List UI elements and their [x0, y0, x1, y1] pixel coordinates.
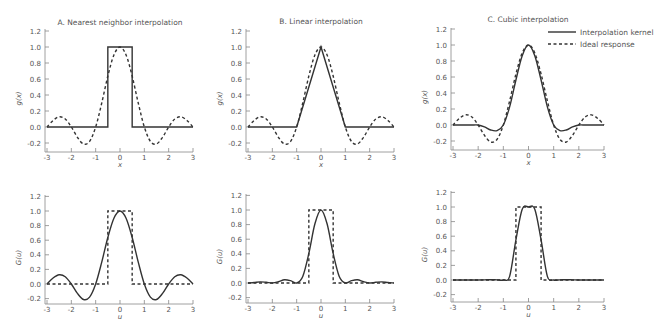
y-tick-label: 1.0: [30, 44, 41, 52]
y-tick-label: 0.8: [231, 221, 242, 229]
x-tick-label: -2: [475, 152, 482, 160]
y-tick-label: 1.2: [436, 26, 447, 34]
y-axis-label: g(x): [216, 91, 224, 105]
legend-label: Ideal response: [580, 40, 635, 49]
series-ideal-response: [453, 207, 604, 280]
x-tick-label: 1: [343, 305, 347, 313]
x-axis-label: u: [319, 312, 324, 320]
x-tick-label: -1: [92, 154, 99, 162]
x-tick-label: -3: [450, 152, 457, 160]
y-tick-label: 1.0: [436, 42, 447, 50]
y-tick-label: 0.4: [30, 251, 42, 259]
x-tick-label: 1: [551, 152, 555, 160]
x-tick-label: 1: [551, 304, 555, 312]
x-tick-label: 2: [367, 154, 371, 162]
series-ideal-response: [248, 47, 394, 144]
y-tick-label: -0.2: [228, 140, 242, 148]
y-tick-label: 1.0: [30, 208, 41, 216]
y-tick-label: 1.2: [231, 192, 242, 200]
y-tick-label: 1.2: [231, 28, 242, 36]
y-tick-label: 0.0: [231, 124, 242, 132]
series-ideal-response: [47, 47, 193, 144]
x-tick-label: 2: [166, 306, 170, 314]
panel-b-bottom: -0.20.00.20.40.60.81.01.2G(u)-3-2-10123u: [216, 192, 396, 320]
y-tick-label: 1.0: [231, 207, 242, 215]
x-axis-label: u: [118, 313, 123, 321]
series-interpolation-kernel: [47, 211, 193, 300]
y-tick-label: 0.4: [231, 92, 243, 100]
x-axis-label: x: [525, 159, 531, 167]
x-axis-label: u: [526, 311, 531, 319]
x-tick-label: 1: [142, 306, 146, 314]
y-axis-label: g(x): [15, 91, 23, 105]
y-axis-label: G(u): [15, 250, 23, 266]
panel-b-top: B. Linear interpolation-0.20.00.20.40.60…: [216, 17, 396, 169]
y-tick-label: 0.2: [30, 266, 41, 274]
y-tick-label: 0.2: [30, 108, 41, 116]
series-ideal-response: [248, 210, 394, 283]
x-tick-label: 3: [602, 152, 606, 160]
y-tick-label: 1.0: [231, 44, 242, 52]
x-tick-label: 3: [191, 154, 195, 162]
x-tick-label: -1: [293, 305, 300, 313]
y-axis-label: g(x): [421, 90, 429, 104]
y-tick-label: -0.2: [27, 140, 41, 148]
series-interpolation-kernel: [453, 45, 604, 131]
x-tick-label: 3: [392, 154, 396, 162]
x-tick-label: 2: [577, 152, 581, 160]
panel-a-top: A. Nearest neighbor interpolation-0.20.0…: [15, 18, 195, 169]
y-tick-label: 0.6: [231, 76, 243, 84]
x-tick-label: 3: [191, 306, 195, 314]
x-tick-label: -2: [68, 154, 75, 162]
y-tick-label: 0.6: [436, 233, 448, 241]
series-ideal-response: [47, 211, 193, 284]
y-axis-label: G(u): [421, 247, 429, 263]
y-axis-label: G(u): [216, 249, 224, 265]
legend-label: Interpolation kernel: [580, 28, 653, 37]
y-tick-label: 0.8: [231, 60, 242, 68]
x-tick-label: -3: [245, 154, 252, 162]
y-tick-label: 0.8: [30, 60, 41, 68]
y-tick-label: 0.0: [436, 122, 447, 130]
series-interpolation-kernel: [453, 206, 604, 280]
y-tick-label: 0.0: [30, 124, 41, 132]
x-tick-label: 2: [166, 154, 170, 162]
y-tick-label: 0.4: [231, 250, 243, 258]
x-tick-label: -1: [293, 154, 300, 162]
y-tick-label: 0.6: [231, 236, 243, 244]
x-tick-label: -1: [500, 152, 507, 160]
y-tick-label: 0.8: [436, 218, 447, 226]
y-tick-label: -0.2: [27, 295, 41, 303]
y-tick-label: 0.6: [30, 76, 42, 84]
y-tick-label: 0.8: [436, 58, 447, 66]
chart-title: A. Nearest neighbor interpolation: [57, 18, 182, 27]
y-tick-label: -0.2: [433, 291, 447, 299]
series-interpolation-kernel: [248, 47, 394, 127]
x-tick-label: -1: [92, 306, 99, 314]
x-tick-label: -3: [245, 305, 252, 313]
y-tick-label: 1.2: [436, 189, 447, 197]
y-tick-label: 0.2: [436, 106, 447, 114]
x-tick-label: -2: [68, 306, 75, 314]
x-axis-label: x: [117, 161, 123, 169]
y-tick-label: 0.6: [30, 237, 42, 245]
x-tick-label: 2: [577, 304, 581, 312]
y-tick-label: 0.6: [436, 74, 448, 82]
y-tick-label: 1.2: [30, 28, 41, 36]
y-tick-label: 0.4: [30, 92, 42, 100]
y-tick-label: 0.8: [30, 222, 41, 230]
figure: A. Nearest neighbor interpolation-0.20.0…: [0, 0, 661, 329]
x-tick-label: 2: [367, 305, 371, 313]
y-tick-label: -0.2: [433, 138, 447, 146]
x-tick-label: -2: [269, 154, 276, 162]
series-interpolation-kernel: [248, 210, 394, 283]
x-axis-label: x: [318, 161, 324, 169]
x-tick-label: -3: [44, 306, 51, 314]
y-tick-label: 0.2: [436, 262, 447, 270]
y-tick-label: 1.2: [30, 193, 41, 201]
y-tick-label: -0.2: [228, 294, 242, 302]
series-ideal-response: [453, 45, 604, 142]
y-tick-label: 0.0: [30, 281, 41, 289]
legend: Interpolation kernelIdeal response: [548, 28, 653, 49]
x-tick-label: 1: [343, 154, 347, 162]
